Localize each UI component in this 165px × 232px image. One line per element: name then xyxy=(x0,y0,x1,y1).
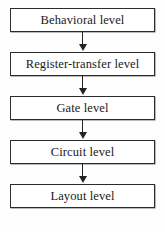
down-arrow-icon xyxy=(76,76,90,96)
down-arrow-icon xyxy=(76,120,90,140)
flow-node-gate[interactable]: Gate level xyxy=(10,96,155,120)
flow-node-label: Register-transfer level xyxy=(26,58,139,71)
down-arrow-icon xyxy=(76,164,90,184)
flow-node-layout[interactable]: Layout level xyxy=(10,184,155,208)
flow-node-register-transfer[interactable]: Register-transfer level xyxy=(10,52,155,76)
flow-node-label: Gate level xyxy=(56,102,108,115)
arrow-head xyxy=(79,44,87,51)
flow-node-circuit[interactable]: Circuit level xyxy=(10,140,155,164)
flow-node-label: Behavioral level xyxy=(41,14,125,27)
flowchart-diagram: Behavioral level Register-transfer level… xyxy=(0,0,165,232)
arrow-head xyxy=(79,88,87,95)
flow-node-behavioral[interactable]: Behavioral level xyxy=(10,8,155,32)
flow-node-label: Circuit level xyxy=(51,146,114,159)
flow-node-label: Layout level xyxy=(50,190,114,203)
flow-stack: Behavioral level Register-transfer level… xyxy=(0,0,165,232)
arrow-head xyxy=(79,176,87,183)
down-arrow-icon xyxy=(76,32,90,52)
arrow-head xyxy=(79,132,87,139)
